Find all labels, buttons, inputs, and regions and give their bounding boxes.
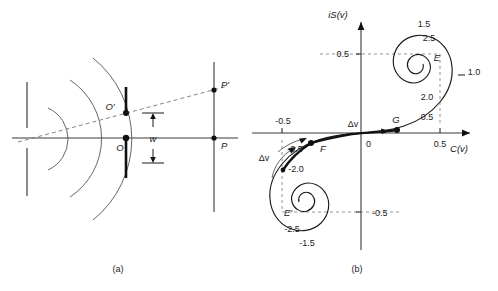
point-lower-marker (281, 168, 286, 173)
x-tick-label-0p5: 0.5 (434, 139, 447, 149)
figure-background (0, 0, 498, 291)
label-P-prime: P' (221, 79, 230, 90)
label-O-prime: O' (105, 101, 115, 112)
point-P-marker (211, 135, 216, 140)
x-tick-label-neg0p5: -0.5 (275, 116, 291, 126)
label-delta-v-lower: Δv (259, 153, 270, 163)
label-w: w (150, 133, 158, 144)
point-O-marker (123, 135, 129, 141)
label-O: O (116, 142, 124, 153)
param-label-neg2p0: -2.0 (288, 164, 304, 174)
y-tick-label-0p5: 0.5 (336, 49, 349, 59)
y-axis-label: iS(v) (328, 9, 348, 20)
param-label-neg1p5: -1.5 (299, 238, 315, 248)
param-label-neg2p5: -2.5 (284, 224, 300, 234)
param-label-1p5: 1.5 (418, 19, 431, 29)
y-tick-label-neg0p5: -0.5 (372, 208, 388, 218)
label-E: E (434, 52, 441, 63)
caption-panel-a: (a) (113, 264, 124, 274)
x-axis-label: C(v) (450, 143, 468, 154)
param-label-1p0: 1.0 (468, 67, 481, 77)
caption-panel-b: (b) (352, 264, 363, 274)
figure-container: O O' P P' w (a) iS(v) C(v) 0.5 -0.5 0.5 … (0, 0, 498, 291)
point-F-marker (308, 140, 314, 146)
param-label-2p0: 2.0 (421, 92, 434, 102)
point-O-prime-marker (123, 110, 129, 116)
figure-svg: O O' P P' w (a) iS(v) C(v) 0.5 -0.5 0.5 … (0, 0, 498, 291)
label-E-prime: E' (284, 207, 293, 218)
param-label-0p5: 0.5 (421, 112, 434, 122)
point-P-prime-marker (211, 87, 216, 92)
label-G: G (392, 114, 399, 125)
param-label-2p5: 2.5 (423, 33, 436, 43)
label-delta-v-origin: Δv (348, 119, 359, 129)
origin-label: 0 (366, 139, 371, 149)
param-label-neg0p5: -0.5 (287, 144, 303, 154)
label-P: P (221, 140, 228, 151)
point-G-marker (394, 127, 400, 133)
